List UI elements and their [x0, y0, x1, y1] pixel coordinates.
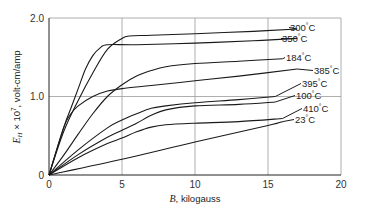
curve-label: 300°C	[290, 22, 315, 34]
curve-labels: 300°C350°C184°C385°C395°C100°C410°C23°C	[282, 22, 339, 126]
curve-label: 184°C	[286, 52, 311, 64]
label-leader	[297, 69, 313, 70]
x-tick-label: 15	[262, 179, 274, 190]
hall-field-chart: 300°C350°C184°C385°C395°C100°C410°C23°C …	[0, 0, 365, 209]
curve-23C	[49, 122, 283, 175]
curve-395C	[49, 97, 275, 176]
curve-100C	[49, 102, 275, 175]
y-axis-label: EH × 107, volt-cm/amp	[10, 50, 24, 144]
curve-label: 350°C	[282, 33, 307, 45]
x-tick-label: 20	[335, 179, 347, 190]
y-tick-label: 1.0	[30, 91, 44, 102]
y-tick-label: 0	[38, 170, 44, 181]
curve-label: 385°C	[314, 65, 339, 77]
y-tick-label: 2.0	[30, 13, 44, 24]
svg-text:EH × 107, volt-cm/amp: EH × 107, volt-cm/amp	[10, 50, 24, 144]
curves	[49, 29, 297, 175]
curve-184C	[49, 59, 283, 175]
curve-label: 410°C	[303, 103, 328, 115]
x-tick-label: 10	[189, 179, 201, 190]
x-tick-label: 5	[119, 179, 125, 190]
x-tick-label: 0	[46, 179, 52, 190]
curve-label: 395°C	[302, 78, 327, 90]
curve-label: 100°C	[296, 90, 321, 102]
curve-350C	[49, 38, 297, 175]
label-leader	[283, 58, 285, 59]
x-axis-label: B, kilogauss	[170, 193, 221, 204]
label-leader	[283, 120, 294, 122]
curve-410C	[49, 118, 283, 175]
curve-label: 23°C	[295, 114, 315, 126]
